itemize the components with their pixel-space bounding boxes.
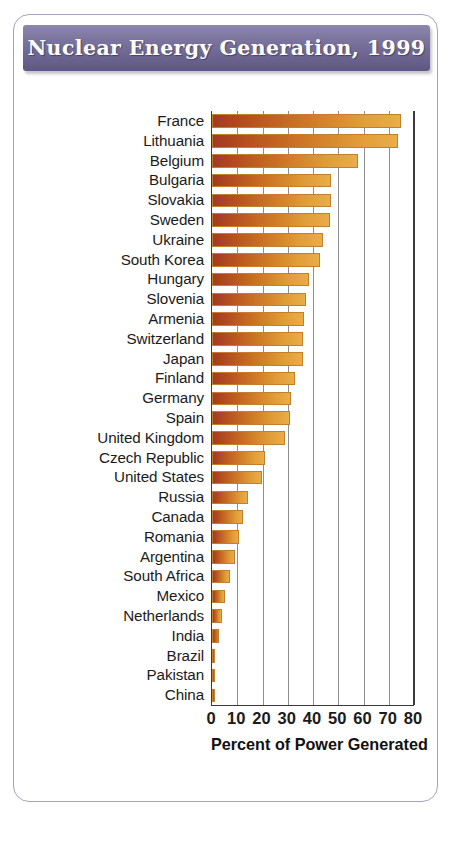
bar <box>212 154 358 168</box>
bar-row: China <box>14 685 438 705</box>
category-label: South Korea <box>14 250 204 270</box>
category-label: South Africa <box>14 566 204 586</box>
category-label: Czech Republic <box>14 448 204 468</box>
bar <box>212 411 290 425</box>
bar-row: Czech Republic <box>14 448 438 468</box>
bar <box>212 550 235 564</box>
bar <box>212 590 225 604</box>
x-tick-80: 80 <box>393 709 433 728</box>
category-label: Canada <box>14 507 204 527</box>
bar-row: Slovenia <box>14 289 438 309</box>
bar <box>212 312 304 326</box>
bar-row: Sweden <box>14 210 438 230</box>
category-label: Bulgaria <box>14 170 204 190</box>
bar <box>212 174 331 188</box>
bar <box>212 134 398 148</box>
bar-row: Russia <box>14 487 438 507</box>
bar <box>212 293 306 307</box>
category-label: Netherlands <box>14 606 204 626</box>
category-label: Russia <box>14 487 204 507</box>
category-label: Germany <box>14 388 204 408</box>
bar-row: Switzerland <box>14 329 438 349</box>
category-label: Armenia <box>14 309 204 329</box>
x-axis-ticks: 01020304050607080 <box>14 709 438 731</box>
bar <box>212 530 239 544</box>
bar <box>212 570 230 584</box>
category-label: Argentina <box>14 547 204 567</box>
bar-row: Romania <box>14 527 438 547</box>
bar-row: Pakistan <box>14 665 438 685</box>
bar <box>212 431 285 445</box>
bar <box>212 213 330 227</box>
category-label: Slovenia <box>14 289 204 309</box>
bar-row: Slovakia <box>14 190 438 210</box>
bar-row: South Korea <box>14 250 438 270</box>
page-title: Nuclear Energy Generation, 1999 <box>27 36 425 60</box>
bar-row: United Kingdom <box>14 428 438 448</box>
bar-row: Japan <box>14 349 438 369</box>
bar <box>212 194 331 208</box>
bar-row: Canada <box>14 507 438 527</box>
category-label: United Kingdom <box>14 428 204 448</box>
bar <box>212 609 222 623</box>
bar <box>212 649 215 663</box>
bar-row: India <box>14 626 438 646</box>
bar-row: Netherlands <box>14 606 438 626</box>
bar-row: Belgium <box>14 151 438 171</box>
bar-row: Ukraine <box>14 230 438 250</box>
bar <box>212 114 401 128</box>
bar-row: Spain <box>14 408 438 428</box>
bar <box>212 233 323 247</box>
category-label: Brazil <box>14 646 204 666</box>
category-label: Slovakia <box>14 190 204 210</box>
bar-row: Finland <box>14 368 438 388</box>
bar <box>212 471 262 485</box>
bar <box>212 253 320 267</box>
bar <box>212 669 215 683</box>
bar-row: France <box>14 111 438 131</box>
category-label: United States <box>14 467 204 487</box>
bar <box>212 332 303 346</box>
bar-chart: FranceLithuaniaBelgiumBulgariaSlovakiaSw… <box>14 83 438 783</box>
bar-row: South Africa <box>14 566 438 586</box>
category-label: Romania <box>14 527 204 547</box>
category-label: Finland <box>14 368 204 388</box>
bar <box>212 352 303 366</box>
bar-row: Armenia <box>14 309 438 329</box>
category-label: France <box>14 111 204 131</box>
bar-row: Brazil <box>14 646 438 666</box>
category-label: China <box>14 685 204 705</box>
category-label: Sweden <box>14 210 204 230</box>
category-label: India <box>14 626 204 646</box>
category-label: Lithuania <box>14 131 204 151</box>
bar-row: Lithuania <box>14 131 438 151</box>
bar <box>212 689 215 703</box>
category-label: Spain <box>14 408 204 428</box>
category-label: Hungary <box>14 269 204 289</box>
category-label: Mexico <box>14 586 204 606</box>
bar <box>212 629 219 643</box>
bar-row: Bulgaria <box>14 170 438 190</box>
bar <box>212 392 291 406</box>
x-axis-label: Percent of Power Generated <box>185 735 413 754</box>
category-label: Pakistan <box>14 665 204 685</box>
category-label: Belgium <box>14 151 204 171</box>
bar <box>212 491 248 505</box>
category-label: Ukraine <box>14 230 204 250</box>
category-label: Switzerland <box>14 329 204 349</box>
bar-row: Mexico <box>14 586 438 606</box>
bar-row: Germany <box>14 388 438 408</box>
bar-row: Hungary <box>14 269 438 289</box>
chart-card: Nuclear Energy Generation, 1999 FranceLi… <box>13 14 438 802</box>
bar-row: United States <box>14 467 438 487</box>
bar <box>212 372 295 386</box>
bar-row: Argentina <box>14 547 438 567</box>
bar <box>212 273 309 287</box>
title-banner: Nuclear Energy Generation, 1999 <box>23 25 430 71</box>
category-label: Japan <box>14 349 204 369</box>
bar <box>212 510 243 524</box>
bar <box>212 451 265 465</box>
